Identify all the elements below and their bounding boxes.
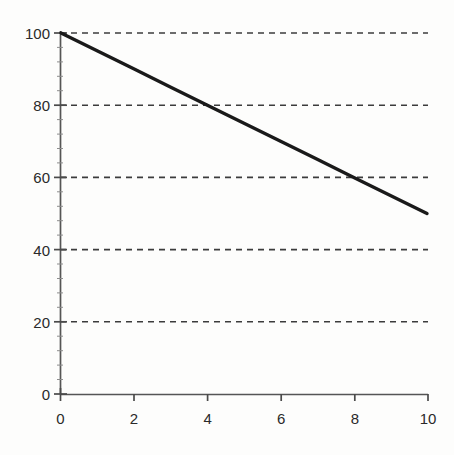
chart-page: 100 80 60 40 20 0 0 2 4 6 8 10 bbox=[0, 0, 454, 455]
line-chart: 100 80 60 40 20 0 0 2 4 6 8 10 bbox=[0, 0, 454, 455]
chart-background bbox=[0, 0, 454, 455]
x-tick-label-2: 2 bbox=[130, 410, 138, 427]
y-tick-label-20: 20 bbox=[33, 314, 50, 331]
y-tick-label-0: 0 bbox=[42, 386, 50, 403]
y-tick-label-60: 60 bbox=[33, 169, 50, 186]
y-tick-label-80: 80 bbox=[33, 97, 50, 114]
x-tick-label-6: 6 bbox=[277, 410, 285, 427]
x-tick-label-10: 10 bbox=[420, 410, 437, 427]
x-tick-label-4: 4 bbox=[203, 410, 211, 427]
x-tick-label-0: 0 bbox=[56, 410, 64, 427]
y-tick-label-100: 100 bbox=[25, 25, 50, 42]
y-tick-label-40: 40 bbox=[33, 242, 50, 259]
x-tick-label-8: 8 bbox=[351, 410, 359, 427]
